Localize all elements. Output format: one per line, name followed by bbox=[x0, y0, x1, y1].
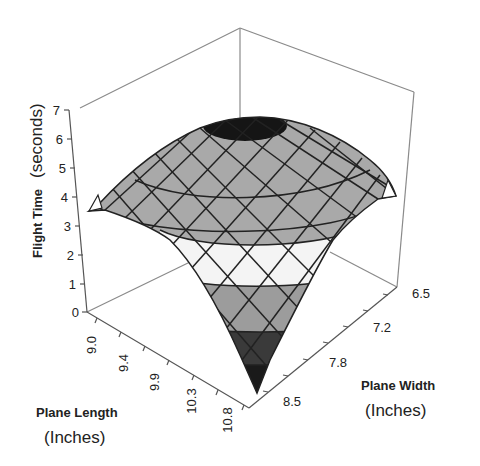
svg-text:3: 3 bbox=[64, 219, 71, 234]
svg-text:7.8: 7.8 bbox=[329, 355, 347, 370]
svg-text:Plane Width: Plane Width bbox=[361, 378, 435, 393]
width-axis-title: Plane Width (Inches) bbox=[361, 378, 435, 420]
length-axis-title: Plane Length (Inches) bbox=[36, 405, 118, 447]
svg-text:4: 4 bbox=[61, 190, 68, 205]
svg-text:(Inches): (Inches) bbox=[365, 401, 426, 420]
svg-text:8.5: 8.5 bbox=[283, 394, 301, 409]
svg-text:6.5: 6.5 bbox=[412, 286, 430, 301]
length-axis bbox=[87, 312, 249, 410]
svg-text:0: 0 bbox=[72, 305, 79, 320]
svg-text:7.2: 7.2 bbox=[373, 320, 391, 335]
svg-text:(Inches): (Inches) bbox=[44, 428, 105, 447]
z-tick-labels: 7 6 5 4 3 2 1 0 bbox=[53, 103, 79, 320]
svg-text:1: 1 bbox=[69, 277, 76, 292]
svg-text:Plane Length: Plane Length bbox=[36, 405, 118, 420]
svg-text:10.8: 10.8 bbox=[220, 407, 235, 432]
corner-left bbox=[89, 195, 102, 211]
svg-text:9.9: 9.9 bbox=[147, 373, 162, 391]
svg-text:(seconds): (seconds) bbox=[27, 103, 46, 178]
svg-text:Flight Time: Flight Time bbox=[30, 189, 45, 258]
svg-text:7: 7 bbox=[53, 103, 60, 118]
svg-text:5: 5 bbox=[59, 161, 66, 176]
svg-text:2: 2 bbox=[67, 248, 74, 263]
surface-plot: 7 6 5 4 3 2 1 0 Flight Time (seconds) 9.… bbox=[0, 0, 480, 466]
svg-text:9.4: 9.4 bbox=[116, 354, 131, 372]
svg-text:6: 6 bbox=[56, 132, 63, 147]
svg-text:9.0: 9.0 bbox=[84, 336, 99, 354]
svg-text:10.3: 10.3 bbox=[184, 388, 199, 413]
z-axis-title: Flight Time (seconds) bbox=[27, 103, 46, 258]
